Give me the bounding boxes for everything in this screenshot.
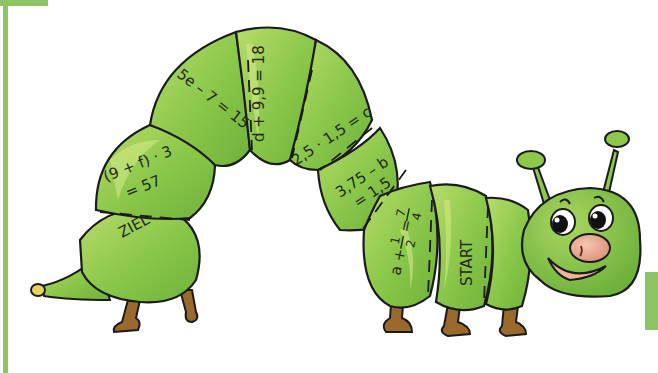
equation-d: d + 9,9 = 18 xyxy=(250,45,268,142)
start-label: START xyxy=(458,239,476,286)
head xyxy=(522,188,640,297)
caterpillar-illustration: ZIEL (9 + f) · 3 = 57 5e – 7 = 15 d + 9,… xyxy=(0,0,658,373)
nose xyxy=(570,234,610,262)
